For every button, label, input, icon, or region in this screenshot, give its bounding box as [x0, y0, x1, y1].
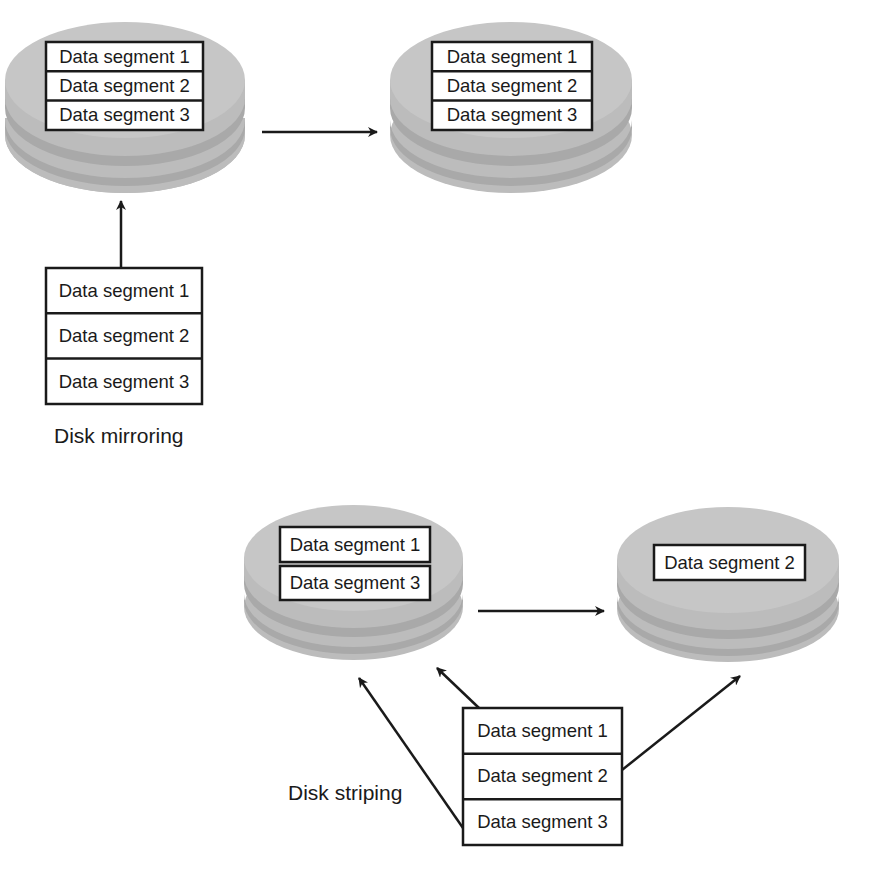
segment-label: Data segment 2: [447, 75, 578, 96]
segment-label: Data segment 3: [59, 371, 190, 392]
mirroring-caption: Disk mirroring: [54, 424, 184, 447]
striping-caption: Disk striping: [288, 781, 402, 804]
striping-disk-b: [617, 507, 839, 662]
segment-label: Data segment 3: [59, 104, 190, 125]
striping-source-segments: Data segment 1 Data segment 2 Data segme…: [463, 708, 622, 845]
segment-label: Data segment 1: [290, 534, 421, 555]
stripe-segment-3-arrow: [359, 678, 463, 828]
segment-label: Data segment 1: [59, 280, 190, 301]
mirroring-mirror-disk-segments: Data segment 1 Data segment 2 Data segme…: [432, 42, 592, 130]
mirroring-source-segments: Data segment 1 Data segment 2 Data segme…: [46, 268, 202, 404]
segment-label: Data segment 1: [447, 46, 578, 67]
segment-label: Data segment 3: [447, 104, 578, 125]
segment-label: Data segment 2: [59, 325, 190, 346]
segment-label: Data segment 3: [477, 811, 608, 832]
stripe-segment-2-arrow: [622, 676, 740, 770]
segment-label: Data segment 2: [664, 552, 795, 573]
mirroring-primary-disk-segments: Data segment 1 Data segment 2 Data segme…: [46, 42, 203, 130]
segment-label: Data segment 1: [477, 720, 608, 741]
segment-label: Data segment 2: [477, 765, 608, 786]
segment-label: Data segment 1: [59, 46, 190, 67]
stripe-segment-1-arrow: [437, 668, 479, 708]
striping-disk-b-segments: Data segment 2: [654, 545, 805, 580]
raid-diagram: Data segment 1 Data segment 2 Data segme…: [0, 0, 873, 873]
segment-label: Data segment 3: [290, 572, 421, 593]
segment-label: Data segment 2: [59, 75, 190, 96]
